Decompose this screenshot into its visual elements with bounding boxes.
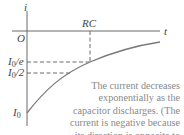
figure-caption: The current decreases exponentially as t… <box>60 80 180 135</box>
t-axis-label: t <box>164 26 167 37</box>
i0-label: I0 <box>13 107 21 120</box>
i0-subscript: 0 <box>17 111 21 120</box>
i-axis-label: i <box>24 2 27 13</box>
origin-label: O <box>17 33 25 44</box>
i0-over-2-label: I0/2 <box>8 67 24 80</box>
over-2-suffix: /2 <box>16 66 25 78</box>
rc-label: RC <box>82 18 96 29</box>
